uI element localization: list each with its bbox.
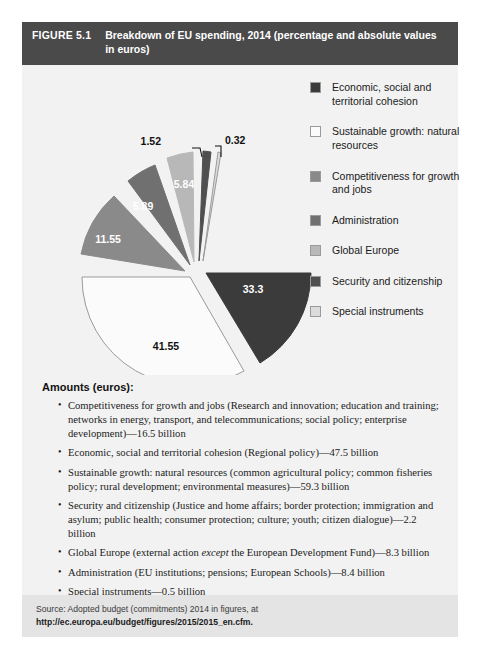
pie-chart: 1.52 0.32 33.3 41.55 11.55 5.89 5.84 xyxy=(22,65,322,375)
legend-item-administration[interactable]: Administration xyxy=(310,214,460,228)
source-prefix: Source: Adopted budget (commitments) 201… xyxy=(36,604,258,614)
list-item: Sustainable growth: natural resources (c… xyxy=(58,466,442,494)
legend-label: Security and citizenship xyxy=(332,275,442,289)
amounts-section: Amounts (euros): Competitiveness for gro… xyxy=(22,375,458,619)
legend-label: Special instruments xyxy=(332,305,424,319)
list-item: Administration (EU institutions; pension… xyxy=(58,566,442,580)
list-item: Security and citizenship (Justice and ho… xyxy=(58,499,442,541)
figure-header: FIGURE 5.1 Breakdown of EU spending, 201… xyxy=(22,22,458,65)
amounts-heading: Amounts (euros): xyxy=(42,381,442,393)
legend-swatch-icon xyxy=(310,306,321,317)
global-europe-pre: Global Europe (external action xyxy=(68,547,202,558)
legend-swatch-icon xyxy=(310,171,321,182)
source-url[interactable]: http://ec.europa.eu/budget/figures/2015/… xyxy=(36,617,253,627)
legend-item-economic-social-territorial-cohesion[interactable]: Economic, social and territorial cohesio… xyxy=(310,81,460,109)
legend-item-competitiveness-growth-jobs[interactable]: Competitiveness for growth and jobs xyxy=(310,170,460,198)
amounts-list: Competitiveness for growth and jobs (Res… xyxy=(42,399,442,619)
legend-label: Sustainable growth: natural resources xyxy=(332,125,460,153)
callout-label-1-52: 1.52 xyxy=(141,135,162,147)
pie-slices xyxy=(81,151,311,375)
chart-area: 1.52 0.32 33.3 41.55 11.55 5.89 5.84 Eco… xyxy=(22,65,458,375)
slice-label-sustainable-growth-natural-resources: 41.55 xyxy=(153,340,179,352)
list-item-global-europe: Global Europe (external action except th… xyxy=(58,546,442,560)
legend-swatch-icon xyxy=(310,82,321,93)
slice-label-global-europe: 5.84 xyxy=(174,178,195,190)
figure-title: Breakdown of EU spending, 2014 (percenta… xyxy=(105,29,448,57)
legend-swatch-icon xyxy=(310,126,321,137)
legend-item-sustainable-growth-natural-resources[interactable]: Sustainable growth: natural resources xyxy=(310,125,460,153)
source-note: Source: Adopted budget (commitments) 201… xyxy=(22,595,458,637)
legend-label: Administration xyxy=(332,214,399,228)
legend-swatch-icon xyxy=(310,215,321,226)
figure-number: FIGURE 5.1 xyxy=(32,29,105,57)
legend-item-global-europe[interactable]: Global Europe xyxy=(310,244,460,258)
figure-panel: FIGURE 5.1 Breakdown of EU spending, 201… xyxy=(22,22,458,637)
slice-label-administration: 5.89 xyxy=(133,200,154,212)
global-europe-emphasis: except xyxy=(202,547,229,558)
legend-label: Economic, social and territorial cohesio… xyxy=(332,81,460,109)
legend-label: Competitiveness for growth and jobs xyxy=(332,170,460,198)
chart-legend: Economic, social and territorial cohesio… xyxy=(310,81,460,336)
global-europe-post: the European Development Fund)—8.3 billi… xyxy=(229,547,430,558)
list-item: Economic, social and territorial cohesio… xyxy=(58,446,442,460)
legend-swatch-icon xyxy=(310,276,321,287)
legend-swatch-icon xyxy=(310,245,321,256)
source-text: Source: Adopted budget (commitments) 201… xyxy=(36,603,444,628)
slice-label-economic-social-territorial-cohesion: 33.3 xyxy=(243,283,264,295)
legend-item-special-instruments[interactable]: Special instruments xyxy=(310,305,460,319)
legend-label: Global Europe xyxy=(332,244,399,258)
callout-label-0-32: 0.32 xyxy=(225,134,246,146)
legend-item-security-citizenship[interactable]: Security and citizenship xyxy=(310,275,460,289)
list-item: Competitiveness for growth and jobs (Res… xyxy=(58,399,442,441)
slice-label-competitiveness-growth-jobs: 11.55 xyxy=(95,233,121,245)
